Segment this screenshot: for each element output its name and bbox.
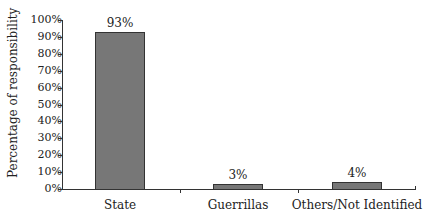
data-label: 4% (317, 166, 397, 180)
x-tick (415, 186, 416, 190)
data-label: 93% (80, 16, 160, 30)
y-axis-line (62, 20, 63, 190)
x-tick (180, 189, 181, 193)
bar-guerrillas (213, 184, 263, 190)
y-axis-label: Percentage of responsibility (6, 28, 20, 178)
bar-state (95, 32, 145, 190)
data-label: 3% (198, 168, 278, 182)
x-tick-label: Others/Not Identified (287, 198, 427, 212)
bar-others-not-identified (332, 182, 382, 190)
x-tick (298, 189, 299, 193)
